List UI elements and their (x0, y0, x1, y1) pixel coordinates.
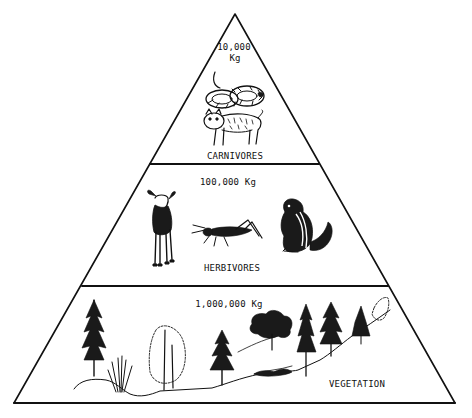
pyramid-outline (14, 14, 455, 403)
snake-icon (206, 72, 264, 108)
grasshopper-icon (192, 220, 262, 246)
tier-carnivores: 10,000 Kg CARNIVORES (204, 42, 264, 161)
vegetation-label: VEGETATION (329, 379, 385, 389)
herbivores-label: HERBIVORES (204, 263, 260, 273)
vegetation-mass: 1,000,000 Kg (195, 299, 262, 309)
tier-vegetation: 1,000,000 Kg (74, 297, 390, 395)
carnivores-label: CARNIVORES (207, 151, 263, 161)
carnivores-mass-value: 10,000 (217, 42, 251, 52)
tier-herbivores: 100,000 Kg HERBIVORES (148, 177, 333, 273)
chipmunk-icon (281, 199, 332, 252)
deer-icon (148, 190, 176, 266)
herbivores-mass: 100,000 Kg (200, 177, 256, 187)
conifer-trees-icon (82, 300, 370, 385)
carnivores-mass-unit: Kg (229, 53, 240, 63)
shrub-icon (108, 356, 132, 392)
ecological-pyramid-diagram: 10,000 Kg CARNIVORES 100,000 Kg (0, 0, 472, 418)
bobcat-icon (204, 109, 263, 145)
